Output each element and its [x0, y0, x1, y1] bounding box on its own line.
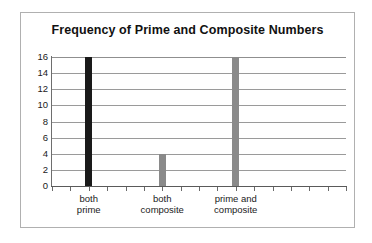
y-tick-label-0: 0 [24, 181, 48, 191]
bar-2 [232, 57, 239, 186]
gridline-10 [52, 105, 346, 106]
x-tick-12 [273, 187, 274, 191]
bar-0 [85, 57, 92, 186]
x-tick-10 [236, 187, 237, 191]
x-tick-0 [52, 187, 53, 191]
x-category-label-1: both composite [141, 193, 184, 215]
x-tick-2 [89, 187, 90, 191]
y-tick-label-10: 10 [24, 100, 48, 110]
x-category-label-2: prime and composite [214, 193, 257, 215]
gridline-8 [52, 122, 346, 123]
x-tick-3 [107, 187, 108, 191]
bar-1 [159, 154, 166, 186]
y-tick-label-12: 12 [24, 84, 48, 94]
x-tick-15 [328, 187, 329, 191]
x-tick-6 [162, 187, 163, 191]
gridline-6 [52, 138, 346, 139]
y-tick-label-8: 8 [24, 117, 48, 127]
gridline-2 [52, 170, 346, 171]
x-tick-11 [254, 187, 255, 191]
chart-frame: Frequency of Prime and Composite Numbers… [20, 12, 355, 228]
y-tick-label-4: 4 [24, 149, 48, 159]
x-tick-7 [181, 187, 182, 191]
chart-title: Frequency of Prime and Composite Numbers [21, 23, 354, 37]
x-tick-1 [70, 187, 71, 191]
plot-area [52, 57, 346, 186]
gridline-12 [52, 89, 346, 90]
y-tick-label-2: 2 [24, 165, 48, 175]
x-tick-14 [309, 187, 310, 191]
x-tick-4 [126, 187, 127, 191]
x-tick-5 [144, 187, 145, 191]
x-tick-9 [217, 187, 218, 191]
y-tick-label-14: 14 [24, 68, 48, 78]
x-tick-16 [346, 187, 347, 191]
y-axis-tick-labels: 1614121086420 [21, 13, 48, 227]
y-tick-label-16: 16 [24, 52, 48, 62]
x-category-label-0: both prime [77, 193, 101, 215]
gridline-16 [52, 57, 346, 58]
gridline-14 [52, 73, 346, 74]
y-tick-label-6: 6 [24, 133, 48, 143]
gridline-4 [52, 154, 346, 155]
x-tick-13 [291, 187, 292, 191]
x-tick-8 [199, 187, 200, 191]
